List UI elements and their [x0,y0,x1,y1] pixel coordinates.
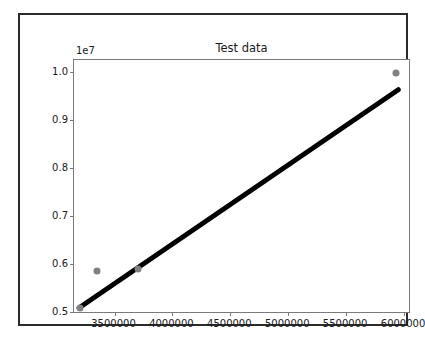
y-tick-label: 0.8 [52,161,68,172]
y-tick-mark [70,312,74,313]
y-tick-label: 0.6 [52,257,68,268]
chart-title: Test data [73,41,410,55]
scatter-point [94,267,101,274]
x-tick-mark [115,312,116,316]
x-axis-tick-labels: 3500000400000045000005000000550000060000… [73,318,410,334]
y-tick-mark [70,264,74,265]
y-tick-mark [70,72,74,73]
fit-line [79,90,398,308]
x-tick-label: 5500000 [323,318,368,329]
scatter-point [76,305,83,312]
y-tick-label: 0.7 [52,209,68,220]
x-tick-label: 4500000 [207,318,252,329]
y-tick-mark [70,216,74,217]
y-tick-label: 1.0 [52,65,68,76]
x-tick-mark [346,312,347,316]
x-tick-label: 3500000 [91,318,136,329]
x-tick-mark [404,312,405,316]
scatter-point [392,69,399,76]
x-tick-mark [172,312,173,316]
x-tick-mark [288,312,289,316]
figure-frame: Test data 1e7 0.50.60.70.80.91.0 3500000… [18,13,408,326]
y-tick-label: 0.5 [52,305,68,316]
y-tick-mark [70,168,74,169]
x-tick-label: 6000000 [381,318,425,329]
y-tick-label: 0.9 [52,113,68,124]
y-tick-mark [70,120,74,121]
scatter-point [134,266,141,273]
y-axis-tick-labels: 0.50.60.70.80.91.0 [34,59,68,313]
fit-line-svg [74,60,411,314]
data-layer [74,60,409,312]
y-axis-offset-label: 1e7 [76,45,95,56]
x-tick-mark [230,312,231,316]
x-tick-label: 4000000 [149,318,194,329]
plot-area [73,59,410,313]
x-tick-label: 5000000 [265,318,310,329]
